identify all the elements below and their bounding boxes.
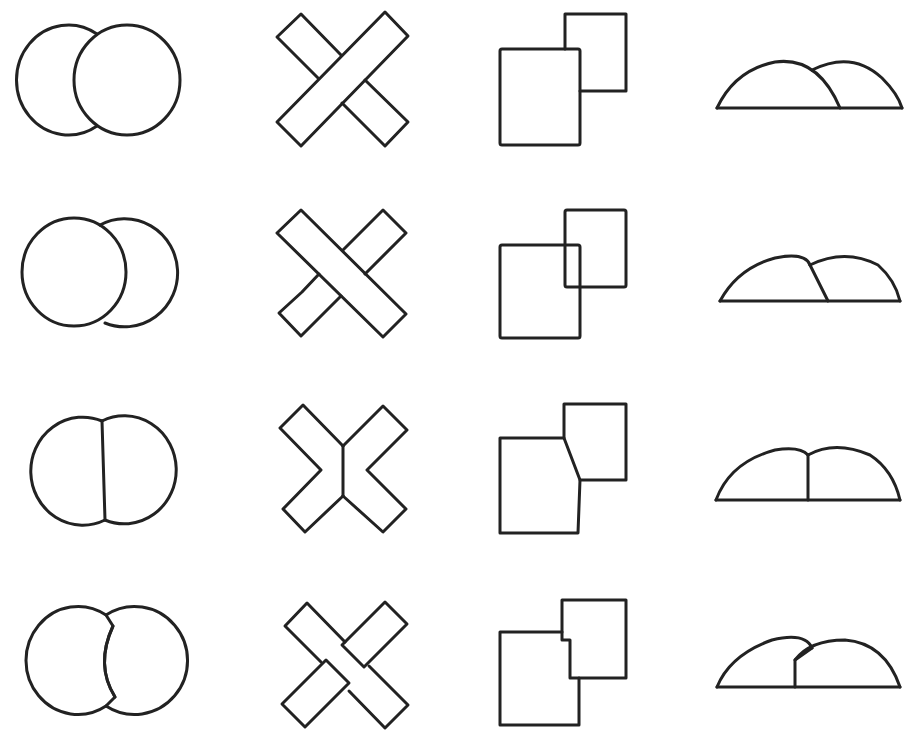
cell-r3-c4-domes [716,448,900,501]
cell-r3-c2-bars [280,405,407,532]
cell-r2-c1-circles [22,218,178,327]
cell-r1-c2-bars [277,12,408,146]
cell-r2-c2-bars [277,210,406,337]
cell-r3-c3-rectangles [500,404,626,533]
cell-r2-c4-domes [720,256,900,301]
cell-r1-c1-circles [16,25,180,135]
cell-r1-c3-rectangles [500,14,626,145]
occlusion-figure-grid [0,0,915,742]
cell-r4-c4-domes [717,637,900,687]
cell-r4-c1-circles [26,607,188,715]
cell-r1-c4-domes [717,61,902,108]
cell-r2-c3-rectangles [500,210,626,338]
cell-r4-c2-bars [282,602,408,728]
cell-r3-c1-circles [31,416,176,525]
cell-r4-c3-rectangles [500,600,626,725]
